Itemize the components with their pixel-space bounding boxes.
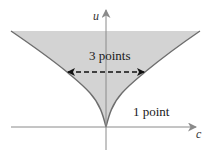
- u-axis-label: u: [93, 9, 99, 23]
- one-point-label: 1 point: [133, 104, 170, 119]
- three-points-label: 3 points: [89, 48, 131, 63]
- cusp-diagram: u c 3 points 1 point: [0, 0, 215, 157]
- c-axis-label: c: [196, 127, 202, 141]
